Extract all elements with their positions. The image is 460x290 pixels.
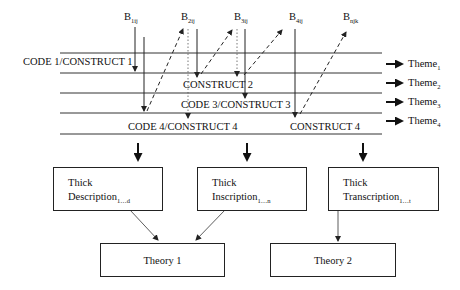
theory-2-box: Theory 2	[270, 243, 396, 277]
theory-arrows	[130, 210, 338, 241]
theory-2-label: Theory 2	[314, 255, 352, 266]
row-label-construct2: CONSTRUCT 2	[183, 80, 253, 91]
thick-transcription-box: Thick Transcription1…t	[328, 167, 439, 211]
label-b4ij: B4ij	[289, 12, 303, 23]
row-label-code4: CODE 4/CONSTRUCT 4	[128, 122, 238, 133]
thick-inscription-line2: Inscription1…n	[212, 192, 271, 203]
thick-transcription-line1: Thick	[343, 178, 368, 189]
thick-description-line2: Description1…d	[68, 192, 130, 203]
theory-1-box: Theory 1	[100, 243, 225, 277]
dashed-arrow-to-b3	[201, 30, 232, 74]
arrow-description-to-theory1	[130, 210, 158, 240]
thick-transcription-line2: Transcription1…t	[343, 192, 411, 203]
label-b1ij: B1ij	[124, 12, 138, 23]
label-b3ij: B3ij	[234, 12, 248, 23]
bold-down-arrows	[138, 143, 363, 160]
theme-3: Theme3	[408, 97, 440, 108]
theme-1: Theme1	[408, 59, 440, 70]
label-bnjk: Bnjk	[343, 12, 358, 23]
theme-4: Theme4	[408, 116, 440, 127]
label-b2ij: B2ij	[181, 12, 195, 23]
row-label-code3: CODE 3/CONSTRUCT 3	[181, 100, 291, 111]
theme-arrows	[386, 64, 402, 121]
row-label-construct4: CONSTRUCT 4	[290, 122, 360, 133]
theme-2: Theme2	[408, 78, 440, 89]
thick-inscription-line1: Thick	[212, 178, 237, 189]
thick-description-box: Thick Description1…d	[53, 167, 163, 211]
theory-1-label: Theory 1	[143, 255, 181, 266]
arrow-inscription-to-theory1	[196, 210, 225, 240]
thick-description-line1: Thick	[68, 178, 93, 189]
dashed-arrow-to-b2	[147, 29, 183, 111]
thick-inscription-box: Thick Inscription1…n	[197, 167, 307, 211]
row-label-code1: CODE 1/CONSTRUCT 1	[23, 57, 133, 68]
